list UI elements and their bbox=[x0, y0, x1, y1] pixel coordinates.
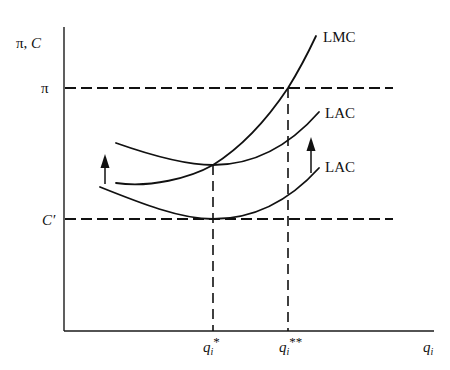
lac-lower-label: LAC bbox=[325, 159, 355, 175]
q-star-label: qi* bbox=[203, 334, 220, 357]
lac-upper-label: LAC bbox=[325, 105, 355, 121]
shift-up-arrow-left-icon bbox=[101, 154, 110, 184]
lac-lower-curve bbox=[100, 168, 319, 219]
y-axis-label: π, C bbox=[16, 35, 42, 51]
shift-up-arrow-right-icon bbox=[307, 137, 316, 173]
pi-level-label: π bbox=[41, 80, 49, 96]
x-axis-label: qi bbox=[423, 339, 434, 357]
q-double-star-label: qi** bbox=[279, 334, 302, 357]
lmc-label: LMC bbox=[323, 29, 356, 45]
c-prime-level-label: C′ bbox=[42, 212, 56, 228]
lmc-curve bbox=[116, 36, 316, 184]
cost-curve-diagram: π, C π C′ LMC LAC LAC qi* qi** qi bbox=[0, 0, 450, 370]
